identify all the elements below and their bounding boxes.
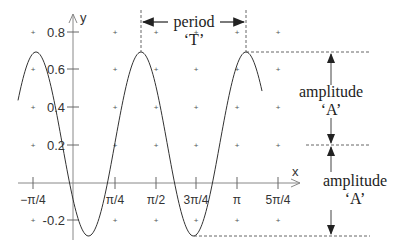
y-axis-label: y bbox=[80, 10, 87, 25]
period-label: period bbox=[174, 13, 215, 31]
x-tick-label: 5π/4 bbox=[266, 193, 291, 207]
sinusoid-chart: ++++++++++++++++++++++++++++++ −π/4π/4π/… bbox=[0, 0, 413, 252]
grid-marker: + bbox=[154, 103, 159, 112]
x-ticks: −π/4π/4π/23π/4π5π/4 bbox=[20, 177, 290, 207]
grid-marker: + bbox=[31, 28, 36, 37]
grid-marker: + bbox=[31, 103, 36, 112]
grid-marker: + bbox=[154, 141, 159, 150]
grid-marker: + bbox=[154, 216, 159, 225]
grid-marker: + bbox=[113, 216, 118, 225]
grid-marker: + bbox=[154, 28, 159, 37]
y-tick-label: 0.6 bbox=[47, 62, 65, 77]
y-tick-label: 0.8 bbox=[47, 25, 65, 40]
grid-marker: + bbox=[194, 141, 199, 150]
grid-marker: + bbox=[235, 216, 240, 225]
grid-marker: + bbox=[194, 65, 199, 74]
y-ticks: 0.80.60.40.2-0.2 bbox=[43, 25, 79, 228]
amplitude-top-symbol: ‘A’ bbox=[321, 101, 341, 118]
grid-marker: + bbox=[31, 65, 36, 74]
grid-marker: + bbox=[154, 65, 159, 74]
grid-marker: + bbox=[113, 28, 118, 37]
amplitude-bottom-label: amplitude bbox=[323, 172, 387, 190]
grid-marker: + bbox=[276, 65, 281, 74]
amplitude-top-label: amplitude bbox=[299, 83, 363, 101]
x-tick-label: π/2 bbox=[147, 193, 166, 207]
x-axis-label: x bbox=[292, 164, 299, 179]
grid-marker: + bbox=[31, 141, 36, 150]
amplitude-bottom-symbol: ‘A’ bbox=[345, 190, 365, 207]
x-tick-label: π bbox=[233, 193, 241, 207]
grid-marker: + bbox=[276, 141, 281, 150]
grid-marker: + bbox=[276, 216, 281, 225]
grid-marker: + bbox=[113, 103, 118, 112]
grid-marker: + bbox=[31, 216, 36, 225]
grid-marker: + bbox=[194, 103, 199, 112]
y-tick-label: -0.2 bbox=[43, 213, 65, 228]
grid-marker: + bbox=[194, 216, 199, 225]
grid-marker: + bbox=[235, 141, 240, 150]
grid-marker: + bbox=[235, 103, 240, 112]
grid-marker: + bbox=[113, 65, 118, 74]
grid-marker: + bbox=[276, 103, 281, 112]
x-tick-label: −π/4 bbox=[20, 193, 46, 207]
x-tick-label: 3π/4 bbox=[184, 193, 209, 207]
x-tick-label: π/4 bbox=[106, 193, 125, 207]
period-symbol: ‘T’ bbox=[184, 31, 204, 48]
grid-marker: + bbox=[276, 28, 281, 37]
grid-marker: + bbox=[235, 28, 240, 37]
